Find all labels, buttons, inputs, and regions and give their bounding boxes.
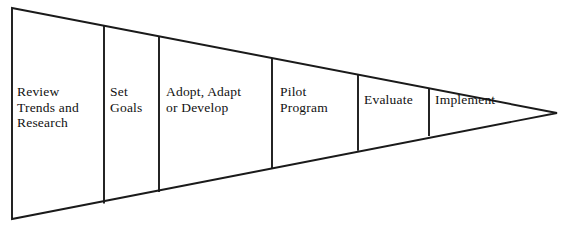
funnel-triangle-outline: [12, 8, 557, 219]
funnel-diagram: Review Trends and Research Set Goals Ado…: [0, 0, 565, 228]
funnel-outline-svg: [0, 0, 565, 228]
